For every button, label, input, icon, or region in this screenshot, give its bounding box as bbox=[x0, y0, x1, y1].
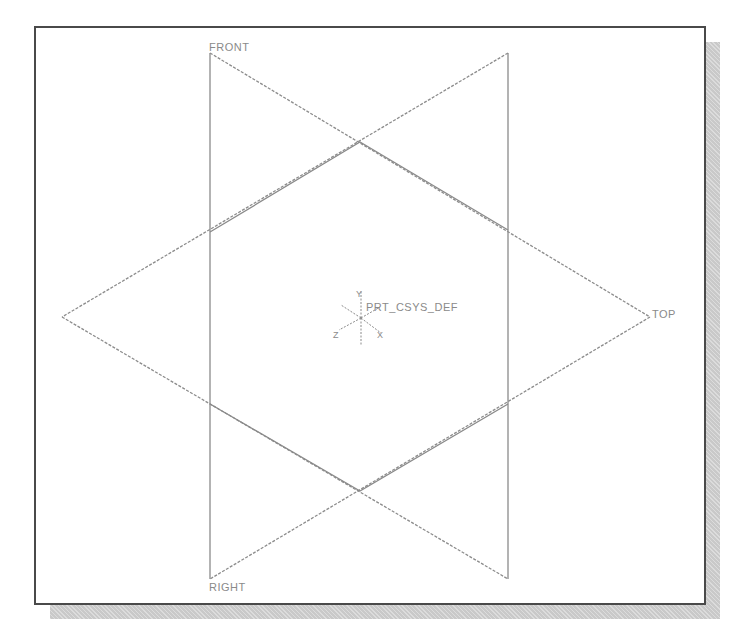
top-plane-lower-outline bbox=[210, 404, 508, 491]
top-plane-label[interactable]: TOP bbox=[652, 308, 676, 320]
csys-z-axis bbox=[339, 318, 361, 330]
datum-edge-upper-left[interactable] bbox=[62, 53, 508, 317]
datum-edge-lower-right[interactable] bbox=[210, 317, 650, 579]
model-scene[interactable]: FRONT RIGHT TOP Y X Z PRT_CSYS_DEF bbox=[0, 0, 753, 644]
csys-label[interactable]: PRT_CSYS_DEF bbox=[366, 301, 458, 313]
csys-x-label: X bbox=[377, 330, 383, 340]
front-plane-label[interactable]: FRONT bbox=[209, 41, 249, 53]
csys-x-axis-neg bbox=[341, 305, 361, 318]
datum-edge-upper-right[interactable] bbox=[210, 53, 650, 317]
top-plane-upper-outline bbox=[210, 142, 508, 232]
csys-y-label: Y bbox=[356, 289, 362, 299]
csys-z-label: Z bbox=[333, 330, 339, 340]
csys-icon[interactable]: Y X Z bbox=[333, 289, 383, 345]
right-plane-label[interactable]: RIGHT bbox=[209, 581, 246, 593]
